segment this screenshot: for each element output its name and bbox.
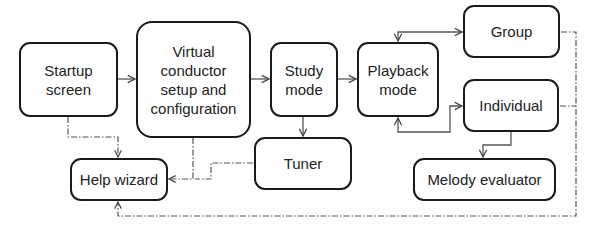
node-label: Tuner [284,154,323,173]
node-label: Melody evaluator [427,170,541,189]
node-label: Help wizard [80,170,158,189]
node-label: Group [491,22,533,41]
node-help-wizard[interactable]: Help wizard [70,158,168,201]
edge-individual-melody [483,132,511,157]
node-label: Individual [479,96,542,115]
node-melody-evaluator[interactable]: Melody evaluator [413,158,556,201]
node-study-mode[interactable]: Study mode [270,42,338,117]
node-individual[interactable]: Individual [463,79,559,132]
node-group[interactable]: Group [463,5,560,58]
node-playback-mode[interactable]: Playback mode [357,42,439,117]
node-tuner[interactable]: Tuner [254,137,352,190]
node-startup-screen[interactable]: Startup screen [19,42,118,117]
node-label: Playback mode [368,61,429,99]
edge-playback-group [398,32,462,41]
edge-tuner-help [195,163,253,179]
node-label: Startup screen [44,61,92,99]
node-label: Study mode [285,61,323,99]
edge-startup-help [68,117,118,157]
node-label: Virtual conductor setup and configuratio… [151,42,237,118]
node-virtual-conductor[interactable]: Virtual conductor setup and configuratio… [136,21,251,138]
edge-vc-help [169,138,193,179]
